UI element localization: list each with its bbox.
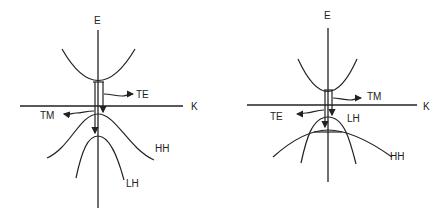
right-diagram: E K TM TE LH HH xyxy=(247,10,430,182)
left-hh-label: HH xyxy=(155,143,169,154)
left-lh-band xyxy=(76,136,124,180)
right-tm-label: TM xyxy=(367,91,381,102)
left-tm-emission-arrow xyxy=(64,111,94,114)
left-diagram: E K TE TM HH LH xyxy=(20,15,198,208)
left-momentum-label: K xyxy=(191,101,198,112)
right-tm-emission-arrow xyxy=(333,98,361,100)
band-diagram-figure: E K TE TM HH LH E K TM TE LH HH xyxy=(0,0,447,216)
right-hh-label: HH xyxy=(390,151,404,162)
right-momentum-label: K xyxy=(423,101,430,112)
left-tm-label: TM xyxy=(40,110,54,121)
left-lh-label: LH xyxy=(126,178,139,189)
right-lh-label: LH xyxy=(347,113,360,124)
right-te-emission-arrow xyxy=(297,110,324,114)
left-energy-label: E xyxy=(94,15,101,26)
left-te-label: TE xyxy=(136,89,149,100)
right-energy-label: E xyxy=(324,10,331,21)
left-te-emission-arrow xyxy=(104,94,133,96)
right-hh-band xyxy=(273,130,392,157)
right-te-label: TE xyxy=(270,111,283,122)
left-hh-band xyxy=(47,114,154,160)
